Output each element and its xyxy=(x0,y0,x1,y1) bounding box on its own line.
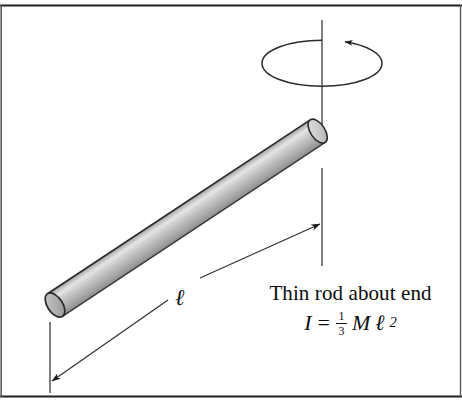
formula-fraction-one-third: 1 3 xyxy=(336,310,347,337)
formula-symbol-I: I xyxy=(304,311,311,334)
fraction-numerator: 1 xyxy=(336,310,346,323)
moment-of-inertia-formula: I = 1 3 M ℓ2 xyxy=(248,309,453,336)
caption-block: Thin rod about end I = 1 3 M ℓ2 xyxy=(248,282,453,336)
physics-figure-thin-rod-about-end: ℓ Thin rod about end I = 1 3 M ℓ2 xyxy=(0,0,462,413)
formula-symbol-ell: ℓ xyxy=(375,311,384,334)
length-label: ℓ xyxy=(175,285,185,311)
formula-symbol-M: M xyxy=(352,311,370,334)
caption-title: Thin rod about end xyxy=(248,282,453,304)
fraction-denominator: 3 xyxy=(336,324,346,337)
figure-canvas xyxy=(0,0,462,413)
formula-equals-sign: = xyxy=(317,311,331,334)
formula-exponent: 2 xyxy=(389,315,396,330)
